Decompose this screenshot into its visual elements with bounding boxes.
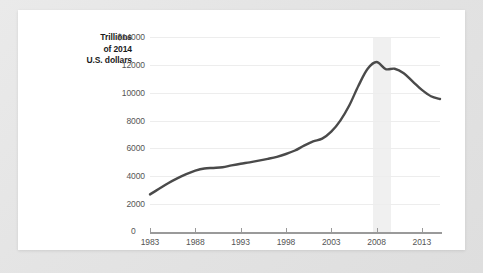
y-axis-title-line-3: U.S. dollars (56, 55, 132, 67)
plot-area: $1400012000100008000600040002000 (150, 37, 440, 232)
x-axis-tick-label: 2008 (367, 237, 386, 247)
x-axis-tick (150, 228, 151, 232)
x-axis-tick-label: 2003 (322, 237, 341, 247)
chart-figure: Trillions of 2014 U.S. dollars $14000120… (18, 10, 465, 250)
y-axis-tick-label: 4000 (126, 171, 145, 181)
x-axis-tick (286, 228, 287, 232)
x-axis-tick (331, 228, 332, 232)
y-axis-tick-label: 8000 (126, 116, 145, 126)
x-axis-tick-label: 2013 (413, 237, 432, 247)
y-axis-tick-label: 6000 (126, 143, 145, 153)
y-axis-tick-label: 2000 (126, 199, 145, 209)
y-axis-tick-label: 12000 (122, 60, 145, 70)
chart-card: Trillions of 2014 U.S. dollars $14000120… (18, 10, 465, 250)
line-series (150, 37, 440, 232)
x-axis-tick-label: 1983 (141, 237, 160, 247)
x-axis-tick (377, 228, 378, 232)
x-axis-tick-label: 1988 (186, 237, 205, 247)
x-axis-tick (241, 228, 242, 232)
x-axis-tick-label: 1993 (231, 237, 250, 247)
y-axis-tick-label: $14000 (117, 32, 145, 42)
y-axis-zero-label: 0 (131, 226, 136, 236)
y-axis-tick-label: 10000 (122, 88, 145, 98)
x-axis-tick (195, 228, 196, 232)
x-axis: 1983198819931998200320082013 (150, 232, 442, 234)
y-axis-title-line-2: of 2014 (56, 44, 132, 56)
x-axis-tick (422, 228, 423, 232)
x-axis-tick-label: 1998 (277, 237, 296, 247)
